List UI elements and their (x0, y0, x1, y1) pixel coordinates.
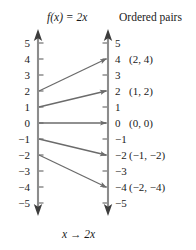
range-axis-label--5: −5 (115, 198, 129, 209)
range-axis-label-4: 4 (115, 54, 129, 65)
domain-axis-label--4: −4 (16, 182, 30, 193)
mapping-arrow--1-to--2 (39, 139, 106, 155)
domain-axis-label--1: −1 (16, 134, 30, 145)
domain-axis-label-2: 2 (16, 86, 30, 97)
mapping-arrows-layer (39, 59, 106, 187)
mapping-diagram-figure: f(x) = 2x Ordered pairs x → 2x 543210−1−… (0, 0, 196, 250)
mapping-rule-label: x → 2x (62, 229, 95, 241)
domain-axis-label-1: 1 (16, 102, 30, 113)
ordered-pair-item: (2, 4) (129, 54, 153, 65)
range-axis-label-1: 1 (115, 102, 129, 113)
domain-axis-label-4: 4 (16, 54, 30, 65)
mapping-arrow-1-to-2 (39, 91, 106, 107)
range-axis-label-3: 3 (115, 70, 129, 81)
range-axis-label-0: 0 (115, 118, 129, 129)
domain-axis-label-5: 5 (16, 38, 30, 49)
range-axis-label--4: −4 (115, 182, 129, 193)
range-axis-label-2: 2 (115, 86, 129, 97)
mapping-arrow--2-to--4 (39, 155, 106, 187)
ordered-pair-item: (0, 0) (129, 118, 153, 129)
domain-axis-label--5: −5 (16, 198, 30, 209)
ordered-pairs-title: Ordered pairs (119, 12, 182, 24)
domain-axis-label-0: 0 (16, 118, 30, 129)
range-axis-label-5: 5 (115, 38, 129, 49)
ordered-pair-item: (−1, −2) (129, 150, 165, 161)
ordered-pair-item: (−2, −4) (129, 182, 165, 193)
range-axis-label--1: −1 (115, 134, 129, 145)
domain-axis-label-3: 3 (16, 70, 30, 81)
domain-axis-label--2: −2 (16, 150, 30, 161)
ordered-pair-item: (1, 2) (129, 86, 153, 97)
domain-axis-label--3: −3 (16, 166, 30, 177)
function-title: f(x) = 2x (47, 12, 87, 24)
mapping-arrow-2-to-4 (39, 59, 106, 91)
range-axis-label--3: −3 (115, 166, 129, 177)
range-axis-label--2: −2 (115, 150, 129, 161)
